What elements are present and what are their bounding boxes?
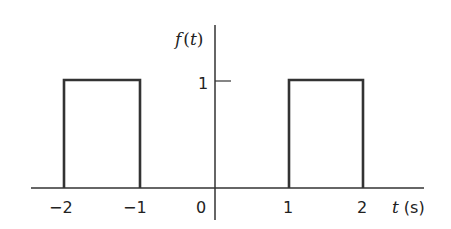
x-tick-label-2: 2	[357, 198, 367, 217]
y-axis-label: f(t)	[173, 29, 203, 49]
x-tick-label-1: 1	[283, 198, 293, 217]
x-tick-label-0: 0	[196, 198, 206, 217]
pulse-left	[64, 80, 140, 188]
x-tick-label-neg1: −1	[123, 198, 147, 217]
x-axis-label: t(s)	[392, 197, 425, 217]
pulse-diagram: f(t) 1 −2 −1 0 1 2 t(s)	[0, 0, 451, 229]
y-tick-label-1: 1	[198, 74, 208, 93]
x-tick-label-neg2: −2	[49, 198, 73, 217]
pulse-right	[289, 80, 363, 188]
